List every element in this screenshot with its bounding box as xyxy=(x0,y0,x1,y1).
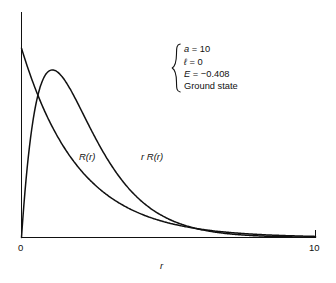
x-axis-label: r xyxy=(160,261,163,271)
annotation-line-list: a = 10 ℓ = 0 E = −0.408 Ground state xyxy=(184,43,238,92)
x-axis-tick-label-max: 10 xyxy=(309,243,320,253)
annotation-value-energy: = −0.408 xyxy=(190,69,229,79)
curve-r-times-R-of-r xyxy=(22,70,316,238)
curve-R-of-r xyxy=(22,48,316,236)
curve-label-R-of-r: R(r) xyxy=(79,152,95,162)
annotation-value-ell: = 0 xyxy=(187,57,203,67)
radial-wavefunction-figure: 0 10 r R(r) r R(r) a = 10 ℓ = 0 E = −0.4… xyxy=(0,0,336,283)
parameter-annotation-block: a = 10 ℓ = 0 E = −0.408 Ground state xyxy=(171,43,238,93)
annotation-line-ell: ℓ = 0 xyxy=(184,56,238,68)
annotation-line-energy: E = −0.408 xyxy=(184,68,238,80)
annotation-line-state: Ground state xyxy=(184,80,238,92)
left-brace-icon xyxy=(171,43,182,93)
curve-label-r-times-R-of-r: r R(r) xyxy=(141,152,163,162)
annotation-value-a: = 10 xyxy=(189,44,210,54)
annotation-line-a: a = 10 xyxy=(184,43,238,55)
plot-canvas xyxy=(0,0,336,283)
x-axis-tick-label-min: 0 xyxy=(18,243,23,253)
